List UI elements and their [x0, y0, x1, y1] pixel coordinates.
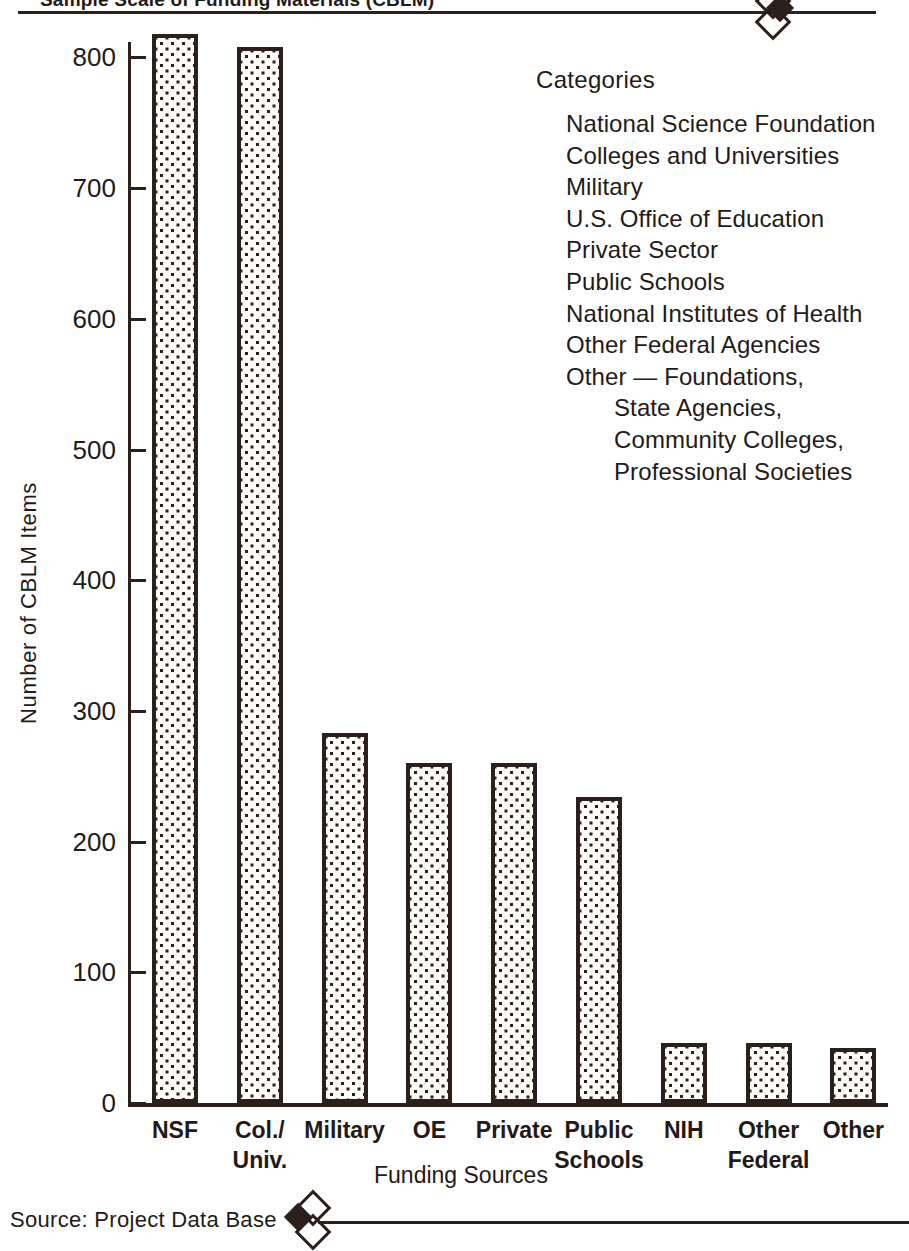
legend-item: Other — Foundations, [566, 361, 909, 393]
legend-item: Colleges and Universities [566, 140, 909, 172]
bar [237, 47, 283, 1103]
legend-item: State Agencies, [566, 392, 909, 424]
x-axis-tick-label-line: Other [793, 1115, 909, 1145]
y-axis-tick-label: 700 [8, 173, 116, 204]
x-axis-line [128, 1103, 888, 1107]
legend-item: Professional Societies [566, 456, 909, 488]
y-axis-tick [131, 1102, 146, 1105]
legend-title: Categories [536, 66, 909, 94]
y-axis-tick-label: 500 [8, 434, 116, 465]
y-axis-tick [131, 56, 146, 59]
x-axis-tick-label-line: Schools [539, 1145, 659, 1175]
legend-item-list: National Science FoundationColleges and … [536, 108, 909, 487]
legend-item: Private Sector [566, 234, 909, 266]
legend-item: National Science Foundation [566, 108, 909, 140]
bar [576, 797, 622, 1103]
x-axis-tick-label-line: Univ. [200, 1145, 320, 1175]
legend-item: National Institutes of Health [566, 298, 909, 330]
y-axis-tick [131, 710, 146, 713]
x-axis-tick-label-line: Federal [709, 1145, 829, 1175]
bar [661, 1043, 707, 1103]
y-axis-tick [131, 187, 146, 190]
y-axis-tick [131, 841, 146, 844]
source-note: Source: Project Data Base [10, 1207, 277, 1233]
source-divider-rule [318, 1221, 909, 1224]
bar [830, 1048, 876, 1103]
y-axis-tick-label: 800 [8, 42, 116, 73]
y-axis-tick-label: 0 [8, 1088, 116, 1119]
bar [491, 763, 537, 1103]
legend-item: Military [566, 171, 909, 203]
x-axis-title: Funding Sources [374, 1162, 548, 1189]
bar [152, 34, 198, 1103]
y-axis-tick-label: 200 [8, 826, 116, 857]
y-axis-tick-label: 300 [8, 695, 116, 726]
legend-item: Public Schools [566, 266, 909, 298]
y-axis-tick [131, 971, 146, 974]
y-axis-tick-label: 600 [8, 303, 116, 334]
bar [746, 1043, 792, 1103]
y-axis-tick-label: 400 [8, 565, 116, 596]
legend-item: Other Federal Agencies [566, 329, 909, 361]
bar [322, 733, 368, 1103]
y-axis-tick [131, 449, 146, 452]
legend-item: Community Colleges, [566, 424, 909, 456]
y-axis-tick [131, 318, 146, 321]
y-axis-line [128, 42, 131, 1106]
y-axis-tick-label: 100 [8, 957, 116, 988]
y-axis-tick [131, 579, 146, 582]
legend-item: U.S. Office of Education [566, 203, 909, 235]
legend: Categories National Science FoundationCo… [536, 66, 909, 487]
bar [406, 763, 452, 1103]
x-axis-tick-label: Other [793, 1115, 909, 1145]
